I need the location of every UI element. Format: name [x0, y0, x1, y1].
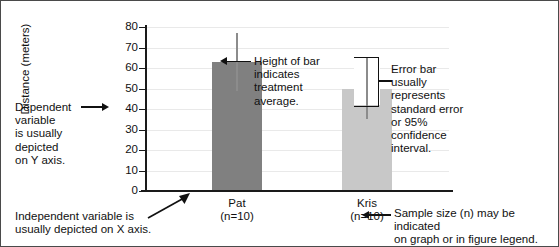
y-label-40: 40: [108, 103, 138, 115]
y-label-0: 0: [108, 185, 138, 197]
y-tick-40: [139, 109, 145, 110]
gridline-70: [146, 48, 449, 49]
note-error-bar: Error bar usually represents standard er…: [391, 63, 487, 155]
y-tick-70: [139, 48, 145, 49]
leader-line-error-bar: [378, 80, 392, 82]
y-label-30: 30: [108, 124, 138, 136]
arrow-left-icon-sample-size: [362, 211, 369, 219]
y-tick-20: [139, 150, 145, 151]
x-category-pat-n: (n=10): [192, 210, 282, 223]
note-sample-size: Sample size (n) may be indicated on grap…: [394, 207, 554, 247]
y-label-70: 70: [108, 42, 138, 54]
leader-line-sample-size: [369, 214, 391, 216]
y-label-60: 60: [108, 62, 138, 74]
y-label-10: 10: [108, 165, 138, 177]
leader-line-bar-height: [227, 61, 251, 63]
error-bracket: [354, 57, 379, 107]
y-label-20: 20: [108, 144, 138, 156]
x-category-pat: Pat: [192, 197, 282, 210]
y-tick-10: [139, 171, 145, 172]
y-tick-30: [139, 130, 145, 131]
y-axis-line: [145, 25, 147, 192]
arrow-right-icon-dependent-variable: [102, 103, 109, 111]
note-bar-height: Height of bar indicates treatment averag…: [254, 55, 358, 108]
y-label-50: 50: [108, 83, 138, 95]
y-tick-80: [139, 27, 145, 28]
gridline-10: [146, 171, 449, 172]
arrow-left-icon-bar-height: [220, 57, 227, 65]
figure-container: 80 70 60 50 40 30 20 10 0 Distance (mete…: [0, 0, 559, 247]
leader-line-dependent-variable: [81, 106, 103, 108]
y-label-80: 80: [108, 21, 138, 33]
note-dependent-variable: Dependent variable is usually depicted o…: [15, 101, 107, 167]
arrow-diagonal-icon-independent-variable: [146, 192, 196, 220]
gridline-80: [146, 27, 449, 28]
y-tick-0: [139, 191, 145, 192]
y-tick-50: [139, 89, 145, 90]
y-tick-60: [139, 68, 145, 69]
